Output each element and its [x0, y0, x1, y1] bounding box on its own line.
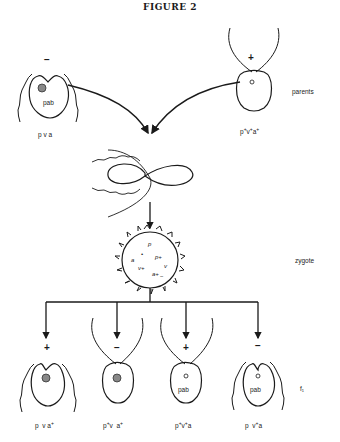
offspring-2-genotype: p+v a+: [103, 420, 123, 429]
parent-plus-cell: [229, 28, 279, 111]
parent-minus-cell: [18, 74, 78, 122]
offspring-1-genotype: p v a+: [35, 420, 54, 429]
fusing-gametes: [92, 150, 193, 217]
offspring-2-sign: −: [114, 342, 120, 353]
offspring-1-cell: [20, 364, 76, 412]
svg-text:−: −: [160, 273, 164, 279]
svg-text:a+: a+: [152, 271, 159, 277]
offspring-4-inner-label: pab: [250, 386, 261, 393]
svg-text:p+: p+: [154, 254, 162, 260]
svg-text:p: p: [147, 241, 152, 247]
svg-text:v: v: [164, 263, 168, 269]
row-label-f1: f₁: [300, 385, 304, 392]
svg-text:•: •: [141, 251, 143, 257]
offspring-3-inner-label: pab: [178, 386, 189, 393]
offspring-4-genotype: p v+a: [245, 420, 262, 429]
parent-plus-sign: +: [248, 52, 254, 63]
offspring-1-sign: +: [44, 342, 50, 353]
svg-text:a: a: [131, 257, 135, 263]
parent-minus-sign: −: [44, 54, 50, 65]
row-label-zygote: zygote: [295, 257, 314, 264]
parent-minus-inner-label: pab: [43, 99, 54, 106]
parent-plus-genotype: p+v+a+: [240, 126, 259, 135]
svg-text:v+: v+: [138, 265, 145, 271]
offspring-3-genotype: p+v+a: [175, 420, 191, 429]
offspring-3-sign: +: [183, 342, 189, 353]
offspring-4-sign: −: [255, 340, 261, 351]
mating-diagram: p a • p+ v v+ a+ −: [0, 0, 340, 442]
parent-minus-genotype: p v a: [38, 131, 52, 138]
row-label-parents: parents: [292, 88, 314, 95]
zygote-cell: [115, 225, 185, 294]
